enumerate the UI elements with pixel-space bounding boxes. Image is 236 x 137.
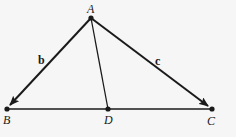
label-a: A xyxy=(86,2,95,16)
label-d: D xyxy=(103,113,113,127)
label-c: C xyxy=(207,114,216,128)
label-vector-c: c xyxy=(155,54,161,68)
vector-c-arrow xyxy=(91,18,208,106)
vector-b-arrow xyxy=(10,18,91,105)
point-c xyxy=(209,106,214,111)
point-b xyxy=(4,106,9,111)
diagram-svg: A B D C b c xyxy=(0,0,236,137)
label-b: B xyxy=(3,113,11,127)
label-vector-b: b xyxy=(38,53,45,67)
triangle-vector-diagram: A B D C b c xyxy=(0,0,236,137)
segment-ad xyxy=(91,18,108,109)
point-d xyxy=(105,106,110,111)
point-a xyxy=(88,15,93,20)
